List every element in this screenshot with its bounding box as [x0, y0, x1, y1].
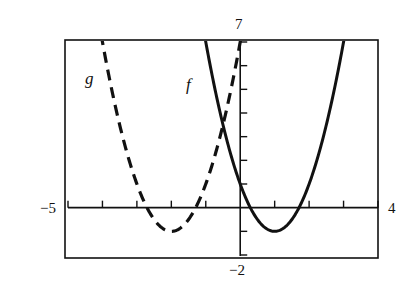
plot-frame	[65, 40, 378, 258]
x-max-label: 4	[388, 201, 396, 216]
g-curve-label: g	[85, 70, 94, 87]
y-max-label: 7	[235, 17, 243, 32]
curve-f	[199, 0, 354, 231]
x-min-label: −5	[40, 201, 56, 216]
graph-canvas	[0, 0, 420, 296]
f-curve-label: f	[186, 76, 191, 93]
y-min-label: −2	[229, 263, 245, 278]
curve-g	[92, 0, 250, 231]
